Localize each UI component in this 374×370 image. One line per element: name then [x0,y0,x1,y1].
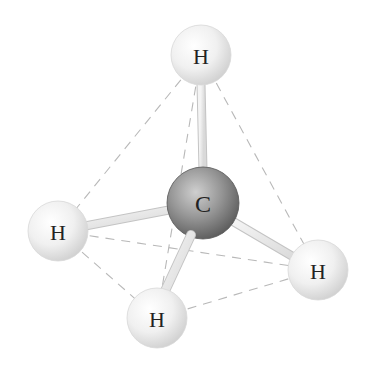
atom-label-h-top: H [193,44,209,69]
atom-label-h-bottom: H [149,307,165,332]
bond-c-h1 [201,84,203,170]
bond-c-h4 [234,222,297,259]
atom-h-left: H [28,201,88,261]
atom-label-carbon: C [195,191,211,217]
bond-c-h2 [85,210,169,226]
atom-label-h-right: H [310,259,326,284]
atom-h-top: H [171,25,231,85]
methane-molecule-diagram: H H H C H [0,0,374,370]
bond-c-h3 [165,235,191,291]
atom-carbon: C [167,167,239,239]
atom-h-bottom: H [127,288,187,348]
atom-label-h-left: H [50,220,66,245]
atom-h-right: H [288,240,348,300]
